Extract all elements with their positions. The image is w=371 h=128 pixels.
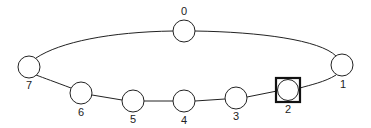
node-label-7: 7 (26, 80, 32, 91)
edge-6-7 (36, 75, 71, 88)
node-label-0: 0 (181, 6, 187, 17)
edge-0-1 (195, 31, 336, 56)
edge-2-3 (247, 91, 277, 97)
node-5[interactable] (122, 90, 144, 112)
node-label-2: 2 (285, 104, 291, 115)
edge-3-4 (195, 99, 225, 101)
node-label-3: 3 (233, 111, 239, 122)
edge-5-6 (92, 95, 122, 100)
node-3[interactable] (225, 87, 247, 109)
node-2[interactable] (278, 80, 299, 101)
edge-1-2 (300, 75, 336, 88)
ring-diagram (0, 0, 371, 128)
node-label-1: 1 (340, 79, 346, 90)
node-4[interactable] (173, 90, 195, 112)
node-6[interactable] (70, 82, 92, 104)
node-1[interactable] (331, 54, 353, 76)
node-0[interactable] (173, 20, 195, 42)
node-label-5: 5 (130, 114, 136, 125)
edge-7-0 (36, 31, 173, 58)
node-label-4: 4 (181, 115, 187, 126)
node-7[interactable] (18, 56, 40, 78)
node-label-6: 6 (78, 107, 84, 118)
